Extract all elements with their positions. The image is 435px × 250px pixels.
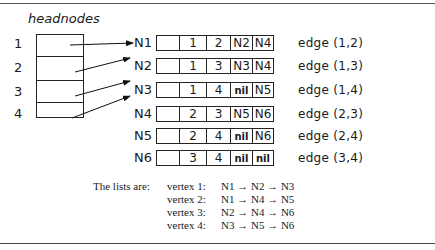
- path2-cell: N4: [252, 36, 273, 50]
- path1-cell: nil: [230, 129, 252, 143]
- path2-cell: N5: [252, 83, 273, 97]
- node-label: N6: [134, 150, 152, 165]
- node-label: N5: [134, 128, 152, 143]
- node-label: N4: [134, 106, 152, 121]
- path2-cell: N6: [252, 129, 273, 143]
- edge-node: 1 4 nil N5: [156, 82, 274, 98]
- vertex1-cell: 3: [179, 151, 206, 165]
- vertex-label: vertex 3:: [167, 206, 206, 218]
- node-label: N3: [134, 82, 152, 97]
- vertex2-cell: 4: [206, 129, 230, 143]
- vertex1-cell: 1: [179, 83, 206, 97]
- node-label: N1: [134, 35, 152, 50]
- path1-cell: N2: [230, 36, 252, 50]
- vertex-label: vertex 2:: [167, 193, 206, 205]
- vertex2-cell: 4: [206, 83, 230, 97]
- vertex2-cell: 3: [206, 107, 230, 121]
- edge-node: 1 2 N2 N4: [156, 35, 274, 51]
- vertex-chain: N3 → N5 → N6: [221, 219, 294, 231]
- arrow-icon: [75, 81, 130, 96]
- path2-cell: nil: [252, 151, 273, 165]
- edge-node: 3 4 nil nil: [156, 150, 274, 166]
- vertex-label: vertex 4:: [167, 219, 206, 231]
- edge-node: 2 3 N5 N6: [156, 106, 274, 122]
- vertex2-cell: 2: [206, 36, 230, 50]
- path2-cell: N6: [252, 107, 273, 121]
- vertex-chain: N1 → N4 → N5: [221, 193, 294, 205]
- edge-label: edge (1,2): [298, 36, 363, 50]
- vertex1-cell: 1: [179, 36, 206, 50]
- arrow-icon: [75, 58, 130, 72]
- vertex1-cell: 1: [179, 59, 206, 73]
- mark-cell: [157, 107, 179, 121]
- path1-cell: N5: [230, 107, 252, 121]
- vertex-chain: N2 → N4 → N6: [221, 206, 294, 218]
- path1-cell: nil: [230, 151, 252, 165]
- node-label: N2: [134, 58, 152, 73]
- path1-cell: nil: [230, 83, 252, 97]
- mark-cell: [157, 36, 179, 50]
- mark-cell: [157, 83, 179, 97]
- vertex-chain: N1 → N2 → N3: [221, 180, 294, 192]
- path2-cell: N4: [252, 59, 273, 73]
- lists-intro: The lists are:: [93, 180, 150, 192]
- edge-label: edge (3,4): [298, 151, 363, 165]
- vertex1-cell: 2: [179, 129, 206, 143]
- edge-node: 2 4 nil N6: [156, 128, 274, 144]
- edge-label: edge (1,3): [298, 59, 363, 73]
- bottom-rule: [0, 243, 435, 244]
- arrow-icon: [72, 96, 130, 118]
- edge-label: edge (2,3): [298, 107, 363, 121]
- vertex-label: vertex 1:: [167, 180, 206, 192]
- edge-node: 1 3 N3 N4: [156, 58, 274, 74]
- vertex2-cell: 4: [206, 151, 230, 165]
- mark-cell: [157, 59, 179, 73]
- edge-label: edge (2,4): [298, 129, 363, 143]
- path1-cell: N3: [230, 59, 252, 73]
- arrow-icon: [70, 43, 133, 45]
- mark-cell: [157, 129, 179, 143]
- edge-label: edge (1,4): [298, 83, 363, 97]
- vertex1-cell: 2: [179, 107, 206, 121]
- vertex2-cell: 3: [206, 59, 230, 73]
- mark-cell: [157, 151, 179, 165]
